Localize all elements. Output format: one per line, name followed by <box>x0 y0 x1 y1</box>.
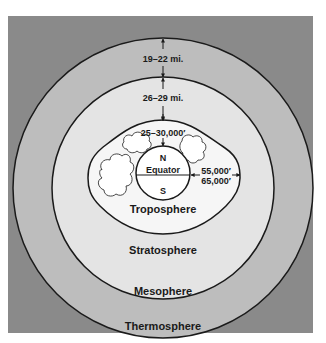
stratosphere-label: Stratosphere <box>129 244 197 256</box>
stratosphere-thickness-label: 26–29 mi. <box>143 93 184 103</box>
thermosphere-label: Thermosphere <box>125 320 201 332</box>
equator-height-label-2: 65,000′ <box>201 176 231 186</box>
equator-height-label-1: 55,000′ <box>201 166 231 176</box>
mesosphere-thickness-label: 19–22 mi. <box>143 54 184 64</box>
equator-label: Equator <box>146 165 180 175</box>
atmosphere-diagram: 19–22 mi. 26–29 mi. 25–30,000′ N Equator… <box>0 0 326 343</box>
troposphere-pole-height-label: 25–30,000′ <box>141 128 186 138</box>
troposphere-label: Troposphere <box>130 203 197 215</box>
north-label: N <box>160 153 167 163</box>
south-label: S <box>160 186 166 196</box>
mesosphere-label: Mesophere <box>134 285 192 297</box>
